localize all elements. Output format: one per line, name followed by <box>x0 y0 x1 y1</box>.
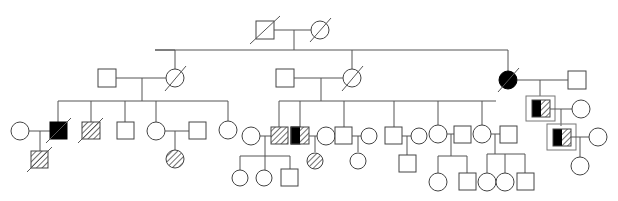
female-spouse-III14 <box>411 128 427 144</box>
female-III17 <box>473 125 491 143</box>
generation-3 <box>11 96 590 156</box>
female-spouse-III20 <box>572 100 590 118</box>
female-IV9 <box>429 173 447 191</box>
female-spouse-IV15 <box>589 128 607 146</box>
male-spouse-III18 <box>500 126 517 143</box>
female-III15 <box>429 125 447 143</box>
generation-2 <box>58 66 586 101</box>
female-V1 <box>571 157 589 175</box>
female-hatched-IV2 <box>166 150 184 168</box>
female-hatched-IV6 <box>307 153 323 169</box>
male-IV13 <box>517 173 534 190</box>
male-III3 <box>117 122 134 139</box>
male-spouse-III5 <box>189 122 206 139</box>
male-spouse-III16 <box>454 126 471 143</box>
male-II3 <box>276 69 294 87</box>
female-spouse-III12 <box>361 128 377 144</box>
male-IV8 <box>399 155 416 172</box>
female-spouse-III7 <box>242 127 260 145</box>
female-IV12 <box>496 173 514 191</box>
female-III4 <box>147 122 165 140</box>
pedigree-chart <box>0 0 618 201</box>
male-IV5 <box>281 169 298 186</box>
female-spouse-III10 <box>317 127 335 145</box>
female-IV4 <box>256 170 272 186</box>
female-IV11 <box>478 173 496 191</box>
male-II1 <box>98 69 116 87</box>
male-II6 <box>568 71 586 89</box>
male-IV10 <box>459 173 476 190</box>
female-IV3 <box>232 170 248 186</box>
male-hatched-III8 <box>271 127 288 144</box>
generation-1 <box>155 16 508 71</box>
female-IV7 <box>350 153 366 169</box>
female-III6 <box>219 121 237 139</box>
male-III13 <box>385 127 402 144</box>
female-spouse-III <box>11 122 29 140</box>
male-III11 <box>335 127 352 144</box>
